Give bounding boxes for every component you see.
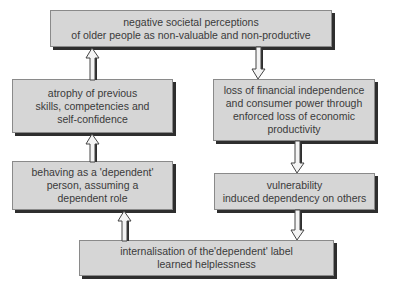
arrow-up-icon — [84, 133, 102, 162]
node-atrophy-of-skills: atrophy of previous skills, competencies… — [12, 79, 173, 133]
arrow-down-icon — [289, 141, 307, 174]
arrow-up-icon — [116, 210, 134, 241]
node-loss-of-financial-independence: loss of financial independence and consu… — [213, 79, 375, 141]
arrow-down-icon — [250, 47, 268, 80]
arrow-up-icon — [84, 47, 102, 80]
arrow-down-icon — [289, 210, 307, 241]
node-internalisation-dependent-label: internalisation of the'dependent' label … — [79, 240, 334, 276]
node-negative-societal-perceptions: negative societal perceptions of older p… — [50, 10, 332, 47]
node-vulnerability: vulnerability induced dependency on othe… — [214, 173, 375, 210]
node-behaving-as-dependent: behaving as a 'dependent' person, assumi… — [12, 161, 173, 210]
